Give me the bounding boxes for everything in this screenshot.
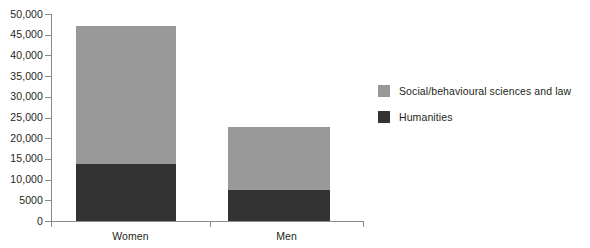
y-axis-tick-label-wrap: 30,000 — [0, 91, 43, 102]
chart-legend: Social/behavioural sciences and law Huma… — [378, 84, 571, 136]
y-axis-tick-label-wrap: 5000 — [0, 195, 43, 206]
x-axis-tick — [210, 221, 211, 227]
y-axis-tick-label-wrap: 25,000 — [0, 112, 43, 123]
bar-stack-women[interactable] — [76, 14, 176, 221]
y-axis-tick-label-wrap: 45,000 — [0, 29, 43, 40]
x-axis-line — [51, 221, 364, 222]
y-axis-tick-label-wrap: 50,000 — [0, 9, 43, 20]
x-axis-label-men: Men — [210, 230, 363, 242]
y-axis-tick-label-wrap: 0 — [0, 216, 43, 227]
bar-segment-men-social-behavioural-sciences-and-law[interactable] — [228, 127, 330, 190]
y-axis-tick-label: 30,000 — [2, 91, 43, 102]
y-axis-tick-label: 20,000 — [2, 133, 43, 144]
legend-item-social-behavioural-sciences-and-law[interactable]: Social/behavioural sciences and law — [378, 84, 571, 97]
y-axis-tick-label: 15,000 — [2, 153, 43, 164]
y-axis-tick-label-wrap: 40,000 — [0, 50, 43, 61]
bar-segment-men-humanities[interactable] — [228, 190, 330, 221]
y-axis-tick-label-wrap: 20,000 — [0, 133, 43, 144]
x-axis-label-women: Women — [51, 230, 210, 242]
y-axis-tick-label: 35,000 — [2, 71, 43, 82]
bar-segment-women-social-behavioural-sciences-and-law[interactable] — [76, 26, 176, 164]
legend-label-social-behavioural-sciences-and-law: Social/behavioural sciences and law — [399, 85, 571, 97]
legend-swatch-social-behavioural-sciences-and-law — [378, 85, 390, 97]
x-axis-tick — [363, 221, 364, 227]
y-axis-tick-label-wrap: 35,000 — [0, 71, 43, 82]
y-axis-tick-label-wrap: 15,000 — [0, 153, 43, 164]
y-axis-tick-label-wrap: 10,000 — [0, 174, 43, 185]
x-axis-tick — [51, 221, 52, 227]
stacked-bar-chart: 50,00045,00040,00035,00030,00025,00020,0… — [0, 0, 590, 248]
y-axis-tick-label: 0 — [2, 216, 43, 227]
y-axis-tick-label: 45,000 — [2, 29, 43, 40]
y-axis-tick-label: 50,000 — [2, 9, 43, 20]
legend-label-humanities: Humanities — [399, 111, 453, 123]
y-axis-tick-label: 5000 — [2, 195, 43, 206]
bar-segment-women-humanities[interactable] — [76, 164, 176, 221]
y-axis-tick-label: 40,000 — [2, 50, 43, 61]
legend-item-humanities[interactable]: Humanities — [378, 110, 571, 123]
y-axis-tick-label: 10,000 — [2, 174, 43, 185]
bar-stack-men[interactable] — [228, 14, 330, 221]
legend-swatch-humanities — [378, 111, 390, 123]
y-axis-tick-label: 25,000 — [2, 112, 43, 123]
plot-area — [51, 14, 363, 221]
